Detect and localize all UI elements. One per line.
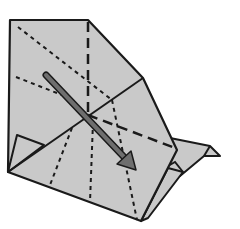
fold-diagram-svg	[0, 0, 240, 229]
origami-diagram	[0, 0, 240, 229]
